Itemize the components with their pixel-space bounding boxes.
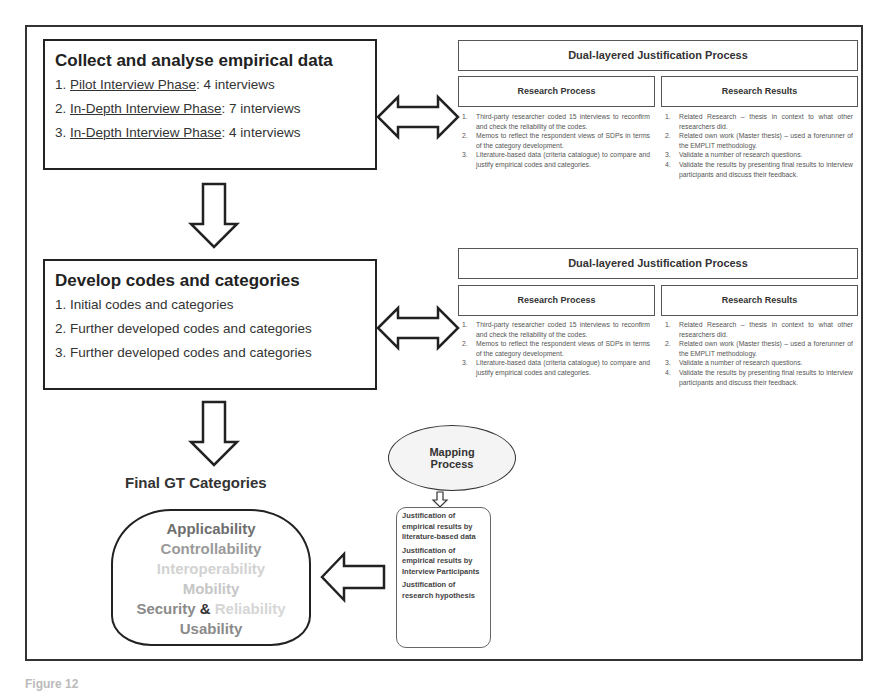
mapping-justification-box: Justification of empirical results by li… — [396, 507, 491, 648]
list-item: 2.Memos to reflect the respondent views … — [458, 339, 650, 358]
phase-item: 1. Initial codes and categories — [55, 297, 375, 312]
dual-layered-title: Dual-layered Justification Process — [458, 248, 858, 279]
dual-layered-title: Dual-layered Justification Process — [458, 40, 858, 71]
figure-caption: Figure 12 — [25, 677, 78, 691]
list-item: 2.Memos to reflect the respondent views … — [458, 131, 650, 150]
pilot-interview-link: Pilot Interview Phase — [70, 77, 196, 92]
develop-codes-box: Develop codes and categories 1. Initial … — [43, 259, 377, 390]
double-arrow-icon — [378, 95, 458, 139]
list-item: 2.Related own work (Master thesis) – use… — [661, 131, 853, 150]
list-item: 1.Third-party researcher coded 15 interv… — [458, 112, 650, 131]
list-item: 4.Validate the results by presenting fin… — [661, 368, 853, 387]
list-item: 3.Literature-based data (criteria catalo… — [458, 150, 650, 169]
phase-title: Collect and analyse empirical data — [55, 51, 375, 71]
phase-item: 2. In-Depth Interview Phase: 7 interview… — [55, 101, 375, 116]
list-item: 3.Validate a number of research question… — [661, 150, 853, 160]
double-arrow-icon — [378, 306, 458, 350]
research-process-header: Research Process — [458, 285, 655, 316]
research-results-header: Research Results — [661, 76, 858, 107]
mapping-item: Justification of research hypothesis — [402, 580, 485, 601]
research-process-header: Research Process — [458, 76, 655, 107]
mapping-label: Mapping — [389, 446, 515, 458]
collect-analyse-box: Collect and analyse empirical data 1. Pi… — [43, 39, 377, 170]
phase-item: 1. Pilot Interview Phase: 4 interviews — [55, 77, 375, 92]
list-item: 1.Related Research – thesis in context t… — [661, 320, 853, 339]
mapping-label: Process — [389, 458, 515, 470]
phase-item: 2. Further developed codes and categorie… — [55, 321, 375, 336]
final-categories-title: Final GT Categories — [125, 474, 267, 491]
final-categories-box: Applicability Controllability Interopera… — [111, 509, 311, 646]
down-arrow-icon — [190, 402, 238, 466]
category-controllability: Controllability — [113, 539, 309, 559]
mapping-item: Justification of empirical results by li… — [402, 511, 485, 543]
left-arrow-icon — [322, 553, 386, 601]
list-item: 1.Related Research – thesis in context t… — [661, 112, 853, 131]
in-depth-interview-link: In-Depth Interview Phase — [70, 101, 222, 116]
research-results-header: Research Results — [661, 285, 858, 316]
phase-title: Develop codes and categories — [55, 271, 375, 291]
mapping-process-ellipse: Mapping Process — [388, 425, 516, 491]
research-process-list: 1.Third-party researcher coded 15 interv… — [458, 112, 650, 170]
small-down-arrow-icon — [432, 492, 448, 508]
research-results-list: 1.Related Research – thesis in context t… — [661, 112, 853, 179]
category-usability: Usability — [113, 619, 309, 639]
list-item: 4.Validate the results by presenting fin… — [661, 160, 853, 179]
list-item: 2.Related own work (Master thesis) – use… — [661, 339, 853, 358]
category-applicability: Applicability — [113, 519, 309, 539]
list-item: 1.Third-party researcher coded 15 interv… — [458, 320, 650, 339]
research-process-list: 1.Third-party researcher coded 15 interv… — [458, 320, 650, 378]
category-security-reliability: Security & Reliability — [113, 599, 309, 619]
list-item: 3.Validate a number of research question… — [661, 358, 853, 368]
phase-item: 3. In-Depth Interview Phase: 4 interview… — [55, 125, 375, 140]
in-depth-interview-link: In-Depth Interview Phase — [70, 125, 222, 140]
down-arrow-icon — [190, 184, 238, 248]
list-item: 3.Literature-based data (criteria catalo… — [458, 358, 650, 377]
category-interoperability: Interoperability — [113, 559, 309, 579]
phase-item: 3. Further developed codes and categorie… — [55, 345, 375, 360]
mapping-item: Justification of empirical results by In… — [402, 546, 485, 578]
category-mobility: Mobility — [113, 579, 309, 599]
research-results-list: 1.Related Research – thesis in context t… — [661, 320, 853, 387]
